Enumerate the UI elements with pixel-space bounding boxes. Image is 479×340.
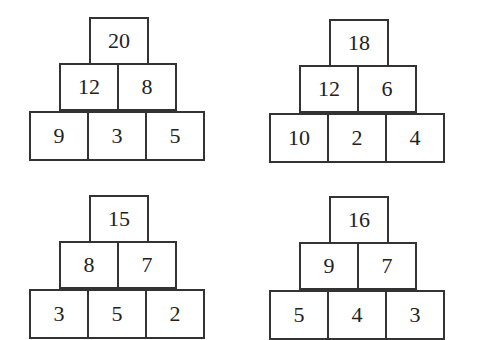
pyramid-row-top: 15 bbox=[89, 195, 149, 243]
pyramid-cell: 9 bbox=[299, 242, 359, 290]
pyramid-row-bottom: 5 4 3 bbox=[269, 290, 445, 338]
pyramid-cell: 10 bbox=[269, 113, 329, 163]
pyramid-cell: 5 bbox=[145, 111, 205, 161]
pyramid-cell: 5 bbox=[87, 289, 147, 339]
pyramid-row-bottom: 10 2 4 bbox=[269, 113, 445, 161]
pyramid-cell: 3 bbox=[385, 290, 445, 340]
pyramid-cell: 12 bbox=[59, 63, 119, 111]
pyramid-cell: 16 bbox=[329, 196, 389, 244]
pyramid-cell: 8 bbox=[59, 241, 119, 289]
pyramid-cell: 18 bbox=[329, 19, 389, 67]
pyramid-cell: 7 bbox=[117, 241, 177, 289]
pyramid-row-bottom: 3 5 2 bbox=[29, 289, 205, 337]
pyramid-cell: 4 bbox=[327, 290, 387, 340]
pyramid-cell: 8 bbox=[117, 63, 177, 111]
pyramid-cell: 3 bbox=[87, 111, 147, 161]
pyramid-cell: 5 bbox=[269, 290, 329, 340]
pyramid-row-middle: 9 7 bbox=[299, 242, 417, 290]
pyramid-row-top: 16 bbox=[329, 196, 389, 244]
pyramid-row-bottom: 9 3 5 bbox=[29, 111, 205, 159]
pyramid-cell: 12 bbox=[299, 65, 359, 113]
pyramid-cell: 3 bbox=[29, 289, 89, 339]
pyramid-cell: 2 bbox=[327, 113, 387, 163]
pyramid-cell: 4 bbox=[385, 113, 445, 163]
pyramid-row-top: 18 bbox=[329, 19, 389, 67]
pyramid-row-top: 20 bbox=[89, 17, 149, 65]
pyramid-row-middle: 12 6 bbox=[299, 65, 417, 113]
pyramid-cell: 20 bbox=[89, 17, 149, 65]
pyramid-row-middle: 12 8 bbox=[59, 63, 177, 111]
pyramid-cell: 6 bbox=[357, 65, 417, 113]
pyramid-cell: 7 bbox=[357, 242, 417, 290]
pyramid-row-middle: 8 7 bbox=[59, 241, 177, 289]
pyramid-cell: 2 bbox=[145, 289, 205, 339]
pyramid-cell: 9 bbox=[29, 111, 89, 161]
pyramid-cell: 15 bbox=[89, 195, 149, 243]
